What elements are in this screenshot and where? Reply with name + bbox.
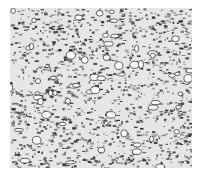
grain-texture <box>10 8 192 168</box>
micrograph-image <box>10 8 192 168</box>
